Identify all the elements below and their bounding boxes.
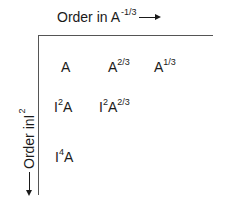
cell-row0-col2: A1/3 (154, 59, 176, 77)
vertical-axis-line (38, 35, 39, 195)
cell-base: A (154, 59, 163, 75)
top-axis-exponent: -1/3 (121, 7, 137, 17)
left-axis-exponent: 2 (15, 109, 29, 114)
cell-exponent: 2/3 (117, 97, 130, 107)
cell-row0-col1: A2/3 (108, 59, 130, 77)
right-arrow-icon (139, 12, 161, 22)
cell-base: A (61, 59, 70, 75)
cell-base: A (108, 99, 117, 115)
top-axis-label-prefix: Order in (57, 9, 111, 25)
horizontal-axis-line (38, 35, 213, 36)
cell-exponent: 4 (59, 147, 64, 157)
cell-row0-col0: A (61, 59, 70, 75)
left-axis-title: Order in I2 (22, 109, 36, 196)
cell-exponent: 2 (103, 97, 108, 107)
cell-row2-col0: I4A (55, 149, 73, 167)
left-axis-label-prefix: Order in (22, 118, 36, 169)
cell-base: A (108, 59, 117, 75)
cell-base: A (63, 99, 72, 115)
cell-exponent: 2/3 (117, 57, 130, 67)
left-axis-variable: I (22, 115, 36, 119)
top-axis-variable: A (111, 9, 120, 25)
top-axis-title: Order in A-1/3 (57, 8, 161, 28)
cell-exponent: 2 (58, 97, 63, 107)
cell-row1-col1: I2A2/3 (99, 99, 130, 117)
cell-exponent: 1/3 (163, 57, 176, 67)
cell-row1-col0: I2A (54, 99, 72, 117)
down-arrow-icon (24, 172, 34, 196)
cell-base: A (64, 149, 73, 165)
